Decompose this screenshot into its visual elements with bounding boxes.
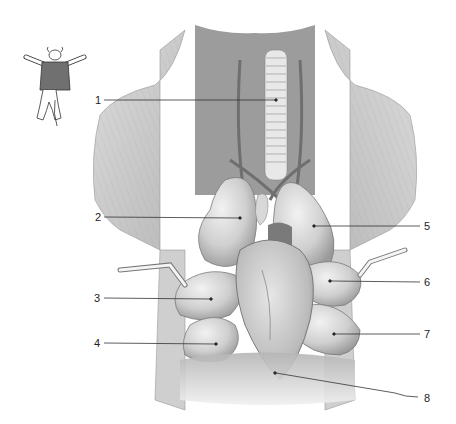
diaphragm xyxy=(180,353,355,406)
label-5: 5 xyxy=(424,220,430,232)
label-4: 4 xyxy=(94,337,100,349)
retractor-right xyxy=(360,250,405,275)
label-8: 8 xyxy=(424,392,430,404)
label-3: 3 xyxy=(94,292,100,304)
label-2: 2 xyxy=(95,211,101,223)
orientation-animal-icon xyxy=(26,47,84,126)
label-7: 7 xyxy=(424,328,430,340)
label-6: 6 xyxy=(424,276,430,288)
neck-structures xyxy=(195,25,315,200)
label-1: 1 xyxy=(95,94,101,106)
thoracic-anatomy-diagram xyxy=(0,0,456,424)
trachea xyxy=(265,50,287,180)
thymus xyxy=(255,194,268,225)
